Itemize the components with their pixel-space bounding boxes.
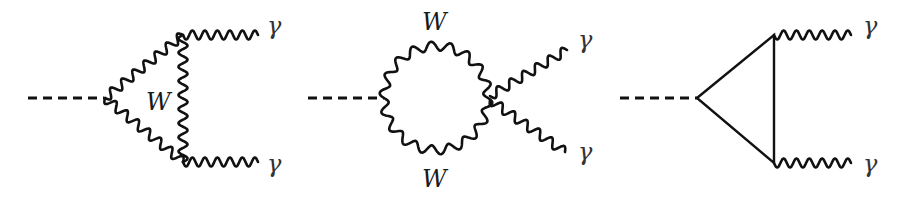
w-propagator-vertical <box>179 35 188 162</box>
fermion-loop-triangle <box>697 35 774 163</box>
diagram-fermion-triangle: γ γ <box>620 12 878 178</box>
photon-line-bottom <box>490 100 566 152</box>
photon-label-top: γ <box>578 26 593 54</box>
diagram-w-triangle: W γ γ <box>28 12 282 178</box>
photon-line-top <box>774 31 851 40</box>
photon-line-bottom <box>183 158 258 167</box>
w-propagator-upper <box>105 33 183 99</box>
photon-line-top <box>183 31 258 40</box>
w-label-top: W <box>422 8 449 36</box>
w-label: W <box>146 88 173 116</box>
photon-label-top: γ <box>267 12 282 40</box>
photon-line-bottom <box>774 159 851 168</box>
w-propagator-lower <box>104 98 183 162</box>
photon-label-bottom: γ <box>267 150 282 178</box>
w-label-bottom: W <box>422 165 449 193</box>
photon-label-bottom: γ <box>578 138 593 166</box>
feynman-diagrams-figure: W γ γ W W γ γ γ γ <box>0 0 897 200</box>
diagram-w-bubble: W W γ γ <box>308 8 593 193</box>
w-loop-circle <box>380 42 493 155</box>
photon-label-bottom: γ <box>863 150 878 178</box>
photon-label-top: γ <box>863 12 878 40</box>
photon-line-top <box>490 48 567 98</box>
